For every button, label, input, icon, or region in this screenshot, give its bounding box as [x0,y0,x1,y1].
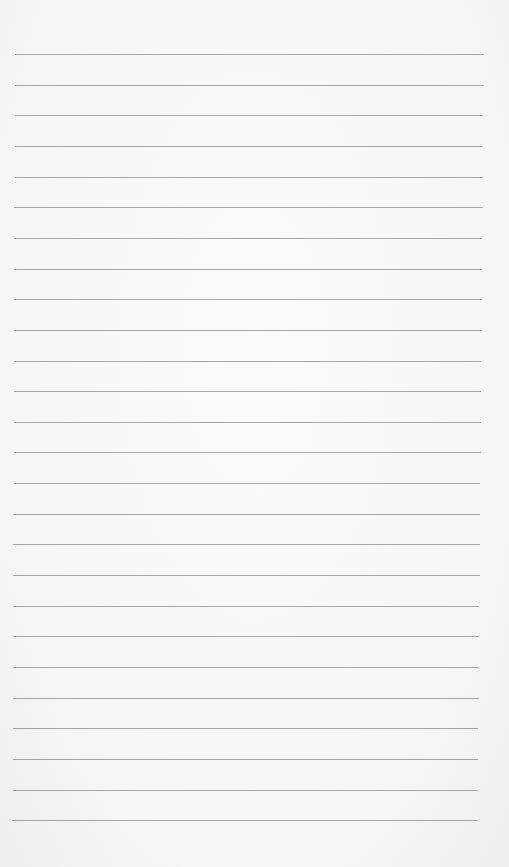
ruled-line [14,422,481,423]
lined-paper-sheet [0,0,509,867]
ruled-line [12,820,478,821]
ruled-line [15,115,483,116]
ruled-line [14,269,482,270]
ruled-line [13,575,480,576]
ruled-line [14,452,481,453]
ruled-line [13,514,480,515]
ruled-line [15,85,484,86]
ruled-line [15,177,483,178]
ruled-line [13,544,480,545]
ruled-line [14,391,481,392]
ruled-line [14,483,480,484]
ruled-line [13,698,479,699]
ruled-line [13,759,478,760]
ruled-line [14,238,482,239]
ruled-line [13,667,479,668]
ruled-line [15,146,483,147]
ruled-line [13,728,478,729]
ruled-line [14,330,482,331]
ruled-line [13,636,479,637]
ruled-line [13,790,478,791]
ruled-line [14,207,483,208]
ruled-line [14,299,482,300]
ruled-line [13,606,479,607]
ruled-line [15,54,484,55]
ruled-line [14,361,481,362]
